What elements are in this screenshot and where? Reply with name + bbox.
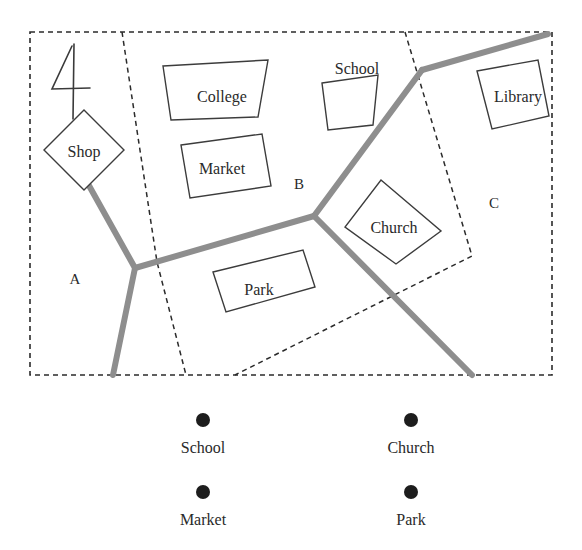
map-figure: 4 Shop College Market School Library Chu… bbox=[0, 0, 582, 550]
building-label-college: College bbox=[197, 88, 247, 106]
study-area-boundary bbox=[30, 32, 552, 375]
road-segment-junction-south bbox=[113, 268, 135, 375]
building-label-library: Library bbox=[494, 88, 542, 106]
legend-label-market: Market bbox=[180, 511, 227, 528]
building-label-market: Market bbox=[199, 160, 246, 177]
building-label-school: School bbox=[335, 60, 380, 77]
zone-label-a: A bbox=[70, 271, 81, 287]
legend-dot-school bbox=[196, 413, 210, 427]
legend-dot-park bbox=[404, 485, 418, 499]
zone-label-c: C bbox=[489, 195, 499, 211]
building-shape-school bbox=[322, 75, 378, 130]
building-label-shop: Shop bbox=[68, 143, 101, 161]
legend-label-church: Church bbox=[387, 439, 434, 456]
legend-label-school: School bbox=[181, 439, 226, 456]
zone-label-b: B bbox=[294, 176, 304, 192]
legend-dot-church bbox=[404, 413, 418, 427]
legend-dot-market bbox=[196, 485, 210, 499]
figure-numeral-4 bbox=[52, 44, 90, 119]
building-label-park: Park bbox=[244, 281, 273, 298]
building-label-church: Church bbox=[370, 219, 417, 236]
figure-root: 4 Shop College Market School Library Chu… bbox=[0, 0, 582, 550]
legend-label-park: Park bbox=[396, 511, 425, 528]
